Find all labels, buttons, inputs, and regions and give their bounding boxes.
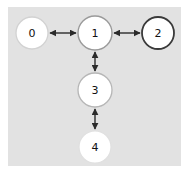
node-label: 2 <box>155 27 162 40</box>
node-label: 1 <box>92 27 99 40</box>
graph-node-4[interactable]: 4 <box>79 131 111 163</box>
graph-node-0[interactable]: 0 <box>16 17 48 49</box>
node-label: 0 <box>29 27 36 40</box>
node-label: 3 <box>92 84 99 97</box>
graph-node-2[interactable]: 2 <box>142 17 174 49</box>
graph-node-1[interactable]: 1 <box>78 16 112 50</box>
graph-node-3[interactable]: 3 <box>78 73 112 107</box>
nodes-layer: 01234 <box>16 16 174 163</box>
node-label: 4 <box>92 141 99 154</box>
graph-figure: 01234 <box>0 0 191 179</box>
graph-canvas: 01234 <box>0 0 191 179</box>
